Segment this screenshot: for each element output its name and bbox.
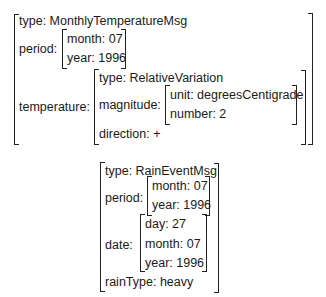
rain-period-year: year: 1996 bbox=[152, 198, 211, 212]
magnitude-label: magnitude: bbox=[99, 98, 161, 112]
period-month: month: 07 bbox=[67, 32, 123, 46]
temperature-type: type: RelativeVariation bbox=[99, 71, 223, 85]
temperature-right-bracket bbox=[301, 70, 306, 145]
temperature-direction: direction: + bbox=[99, 127, 161, 141]
rain-period-right-bracket bbox=[205, 176, 210, 216]
magnitude-right-bracket bbox=[292, 85, 297, 125]
rain-date-label: date: bbox=[105, 238, 133, 252]
period-right-bracket bbox=[121, 29, 126, 69]
period-label: period: bbox=[19, 42, 57, 56]
period-year: year: 1996 bbox=[67, 51, 126, 65]
rain-date-day: day: 27 bbox=[145, 217, 186, 231]
rain-period-month: month: 07 bbox=[152, 179, 208, 193]
rain-type-value: rainType: heavy bbox=[105, 275, 193, 289]
rain-type-attribute: type: RainEventMsg bbox=[105, 164, 217, 178]
rain-date-month: month: 07 bbox=[145, 237, 201, 251]
rain-date-right-bracket bbox=[202, 214, 207, 272]
rain-outer-right-bracket bbox=[214, 163, 219, 293]
magnitude-unit: unit: degreesCentigrade bbox=[170, 88, 303, 102]
rain-date-year: year: 1996 bbox=[145, 256, 204, 270]
outer-right-bracket bbox=[308, 13, 313, 145]
temperature-label: temperature: bbox=[19, 100, 90, 114]
type-attribute: type: MonthlyTemperatureMsg bbox=[19, 14, 187, 28]
outer-left-bracket bbox=[14, 14, 19, 145]
magnitude-number: number: 2 bbox=[170, 107, 226, 121]
rain-outer-left-bracket bbox=[100, 162, 105, 292]
rain-period-label: period: bbox=[105, 191, 143, 205]
